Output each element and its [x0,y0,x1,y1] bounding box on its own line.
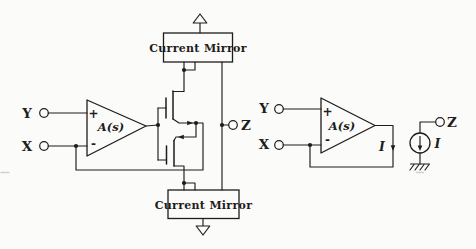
ground-icon [410,164,430,173]
right-opamp-gain-label: A(s) [328,119,355,133]
right-terminal-z-label: Z [447,114,457,130]
left-opamp-minus-sign: - [91,137,96,151]
current-source-arrow-icon [418,146,423,151]
left-terminal-y-label: Y [21,105,32,121]
right-terminal-y-node [275,105,284,114]
right-terminal-z-node [436,118,445,127]
circuit-diagram-svg: Y X + - A(s) [0,0,476,249]
nmos-transistor [158,62,196,125]
nmos-source-arrow-icon [187,121,193,126]
left-terminal-z-label: Z [241,117,251,133]
left-terminal-x-label: X [22,138,33,154]
left-opamp-gain-label: A(s) [97,120,124,134]
output-current-label: I [378,139,386,154]
vss-supply-icon [196,226,210,235]
top-current-mirror-label: Current Mirror [149,42,247,55]
right-opamp-minus-sign: - [325,133,330,147]
current-source-label: I [434,136,442,151]
left-terminal-z-node [229,121,238,130]
left-terminal-y-node [40,109,49,118]
pmos-source-wire [174,123,196,141]
current-source: Z I [410,114,457,165]
pmos-source-arrow-icon [178,135,184,140]
left-terminal-x-node [40,142,49,151]
top-current-mirror: Current Mirror [149,14,247,72]
schematic-figure: Y X + - A(s) [0,0,476,249]
current-source-top-lead [420,122,436,133]
vdd-supply-icon [193,14,207,23]
ground-hatch [410,165,429,171]
output-current-arrow-icon [391,145,396,151]
left-circuit: Y X + - A(s) [21,14,252,235]
bottom-current-mirror: Current Mirror [155,181,253,235]
nmos-source-wire [173,119,196,123]
nmos-drain-wire [173,62,184,92]
right-terminal-x-node [275,141,284,150]
right-opamp-plus-sign: + [322,105,332,119]
right-terminal-x-label: X [259,136,270,152]
bottom-current-mirror-label: Current Mirror [155,199,253,212]
pmos-transistor [158,123,196,190]
right-terminal-y-label: Y [258,100,269,116]
right-circuit: Y X + - A(s) I Z I [258,98,457,173]
